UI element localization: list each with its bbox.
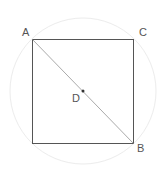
label-d: D <box>72 92 80 104</box>
label-b: B <box>137 142 144 154</box>
geometry-diagram: A C B D <box>0 0 168 171</box>
diagram-svg: A C B D <box>0 0 168 171</box>
center-point-d <box>82 90 85 93</box>
label-a: A <box>22 26 30 38</box>
label-c: C <box>139 26 147 38</box>
